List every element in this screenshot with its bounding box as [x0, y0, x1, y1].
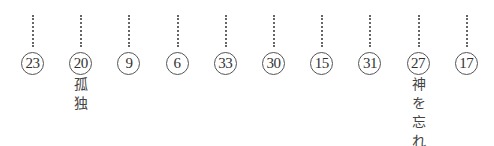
marker-column: 30 — [254, 0, 294, 146]
circled-number: 33 — [214, 52, 237, 75]
marker-column: 33 — [206, 0, 246, 146]
marker-column: 23 — [13, 0, 53, 146]
marker-column: 15 — [302, 0, 342, 146]
dotted-leader-line — [273, 15, 275, 47]
dotted-leader-line — [177, 15, 179, 47]
dotted-leader-line — [80, 15, 82, 47]
circled-number: 6 — [166, 52, 189, 75]
dotted-leader-line — [418, 15, 420, 47]
circled-number: 9 — [117, 52, 140, 75]
dotted-leader-line — [225, 15, 227, 47]
circled-number: 27 — [407, 52, 430, 75]
marker-column: 17 — [447, 0, 487, 146]
circled-number: 17 — [455, 52, 478, 75]
marker-column: 31 — [350, 0, 390, 146]
circled-number: 31 — [358, 52, 381, 75]
circled-number: 23 — [21, 52, 44, 75]
circled-number: 15 — [310, 52, 333, 75]
dotted-leader-line — [128, 15, 130, 47]
circled-number: 30 — [262, 52, 285, 75]
dotted-leader-line — [369, 15, 371, 47]
dotted-leader-line — [321, 15, 323, 47]
dotted-leader-line — [32, 15, 34, 47]
vertical-label: 孤 独 — [61, 75, 101, 113]
dotted-leader-line — [466, 15, 468, 47]
marker-column: 6 — [158, 0, 198, 146]
vertical-label: 神 を 忘 れ — [399, 75, 439, 146]
marker-column: 9 — [109, 0, 149, 146]
marker-column: 20孤 独 — [61, 0, 101, 146]
circled-number: 20 — [69, 52, 92, 75]
marker-column: 27神 を 忘 れ — [399, 0, 439, 146]
